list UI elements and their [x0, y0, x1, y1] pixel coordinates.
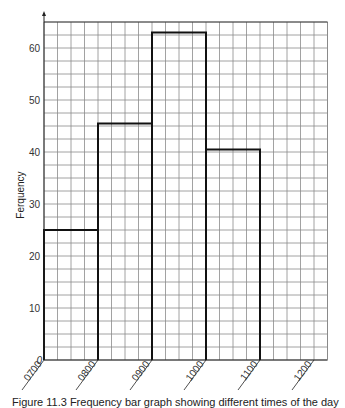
y-axis-label: Ferquency [15, 171, 26, 218]
y-tick-label: 60 [29, 43, 41, 54]
y-tick-label: 40 [29, 147, 41, 158]
x-tick-label: 0900 [129, 358, 151, 383]
grid-lines [44, 22, 328, 360]
y-tick-label: 30 [29, 199, 41, 210]
histogram-bars [44, 32, 260, 360]
x-axis-tick-labels: 070008000900100011001200 [21, 358, 314, 390]
x-tick-label: 1200 [291, 358, 313, 383]
x-tick-label: 0800 [75, 358, 97, 383]
y-axis-arrow-icon [42, 11, 46, 16]
y-axis-tick-labels: 0102030405060 [29, 43, 43, 366]
y-tick-label: 20 [29, 251, 41, 262]
figure-caption: Figure 11.3 Frequency bar graph showing … [12, 396, 339, 408]
x-tick-label: 1100 [238, 358, 260, 382]
y-tick-label: 10 [29, 303, 41, 314]
y-tick-label: 50 [29, 95, 41, 106]
x-tick-label: 1000 [183, 358, 205, 383]
